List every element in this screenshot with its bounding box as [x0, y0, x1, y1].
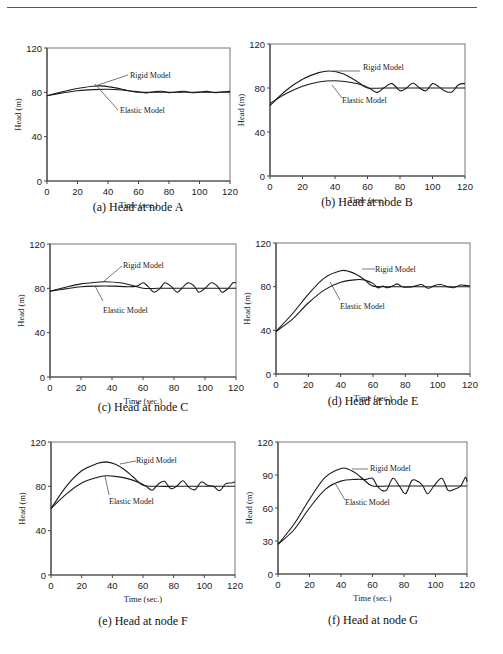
caption-e: (e) Head at node F: [98, 614, 188, 628]
caption-c: (c) Head at node C: [98, 400, 189, 414]
caption-a: (a) Head at node A: [93, 200, 184, 214]
caption-b: (b) Head at node B: [321, 195, 412, 209]
caption-f: (f) Head at node G: [328, 613, 418, 627]
caption-d: (d) Head at node E: [328, 394, 419, 408]
captions-layer: (a) Head at node A (b) Head at node B (c…: [0, 0, 503, 654]
